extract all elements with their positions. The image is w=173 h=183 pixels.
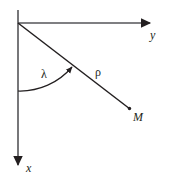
- rho-length-label: ρ: [95, 66, 101, 78]
- lambda-angle-label: λ: [41, 68, 47, 80]
- rho-ray-line: [18, 23, 130, 109]
- polar-coordinate-diagram: y x λ ρ M: [0, 0, 173, 183]
- diagram-canvas: [0, 0, 173, 183]
- y-axis-label: y: [150, 29, 155, 41]
- point-m-marker: [128, 107, 131, 110]
- x-axis-label: x: [26, 162, 31, 174]
- point-m-label: M: [133, 111, 143, 123]
